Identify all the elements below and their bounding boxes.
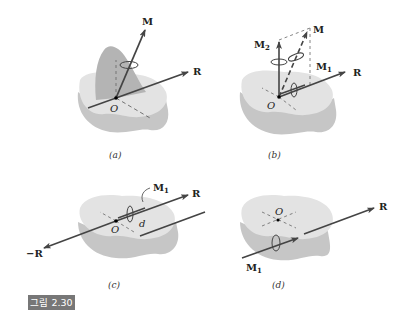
caption-d: (d) [272,280,285,290]
panel-a: M R O (a) [78,16,202,160]
label-d: d [139,218,145,229]
label-O: O [111,224,119,235]
label-R: R [379,201,388,212]
label-R: R [353,67,362,78]
label-M1: M1 [246,262,262,275]
moment-plane [95,46,146,100]
label-M1: M1 [316,61,332,74]
rigid-body [241,195,333,239]
caption-a: (a) [109,150,122,160]
panel-b: M M2 M1 R O (b) [240,24,362,160]
label-O: O [110,103,118,114]
origin-point [277,95,281,99]
label-neg-R: −R [26,248,43,259]
label-M1: M1 [153,182,169,195]
figure-canvas: M R O (a) M M2 M1 R O (b) [0,0,403,326]
origin-point [114,96,118,100]
origin-point [114,219,118,223]
figure-label: 그림 2.30 [28,295,75,310]
label-M: M [313,24,324,35]
label-O: O [275,206,283,217]
label-R: R [193,66,202,77]
panel-d: M1 R O (d) [240,195,388,290]
rigid-body [241,70,333,115]
label-R: R [192,188,201,199]
label-M2: M2 [254,39,270,52]
label-M: M [142,16,153,27]
panel-c: M1 R −R O d (c) [26,182,205,290]
caption-c: (c) [108,280,121,290]
label-O: O [267,100,275,111]
caption-b: (b) [268,150,281,160]
origin-point [276,218,279,221]
